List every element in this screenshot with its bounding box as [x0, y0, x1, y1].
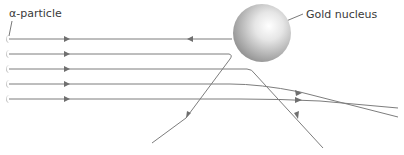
gold-nucleus-label: Gold nucleus: [306, 8, 378, 21]
alpha-particle-label: α-particle: [9, 7, 62, 20]
gold-nucleus-sphere: [233, 4, 291, 62]
alpha-path-2: [9, 51, 231, 143]
arrow-right-icon: [64, 66, 70, 72]
alpha-particle-leader-line: [9, 21, 12, 36]
arrow-right-icon: [64, 96, 70, 102]
arrow-right-icon: [295, 97, 302, 103]
arrow-right-icon: [64, 81, 70, 87]
alpha-path-3: [9, 66, 323, 148]
arrow-left-icon: [187, 36, 193, 42]
alpha-path-1: [9, 36, 232, 42]
arrow-right-icon: [295, 90, 302, 96]
arrow-right-icon: [64, 51, 70, 57]
arrow-right-icon: [64, 36, 70, 42]
rutherford-scattering-diagram: α-particle Gold nucleus: [0, 0, 404, 155]
